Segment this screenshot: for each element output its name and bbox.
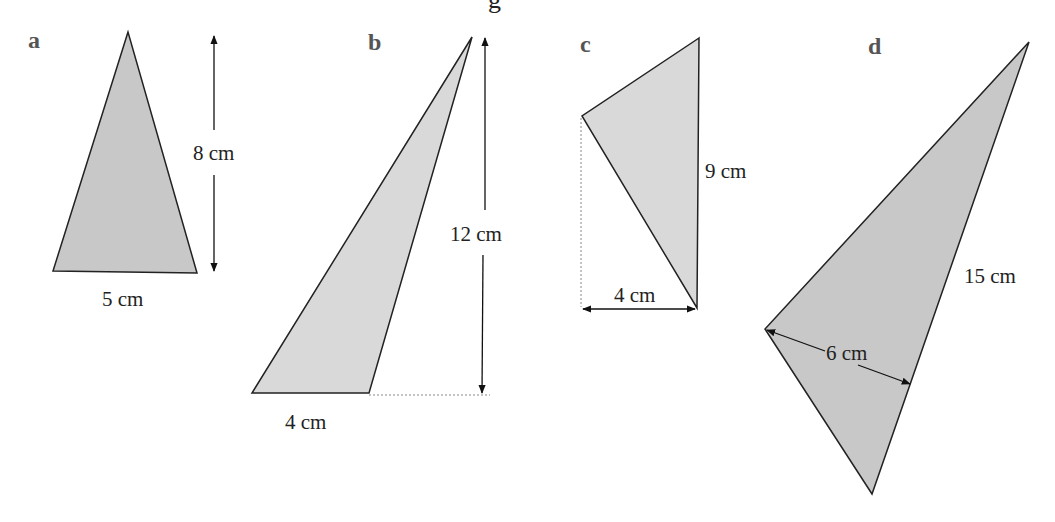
figure-d: d 6 cm 15 cm bbox=[765, 33, 1029, 494]
figure-b-letter: b bbox=[368, 29, 381, 55]
side-label-d: 15 cm bbox=[964, 264, 1016, 288]
triangles-diagram: g a 8 cm 5 cm b 12 cm 4 cm c 9 cm 4 cm d… bbox=[0, 0, 1055, 522]
figure-d-letter: d bbox=[868, 33, 882, 59]
figure-a-letter: a bbox=[28, 27, 40, 53]
height-label-c: 9 cm bbox=[705, 159, 746, 183]
figure-c: c 9 cm 4 cm bbox=[580, 31, 746, 309]
height-arrow-b-down bbox=[482, 255, 483, 393]
figure-b: b 12 cm 4 cm bbox=[252, 29, 502, 434]
height-label-a: 8 cm bbox=[193, 141, 234, 165]
triangle-c bbox=[582, 38, 699, 308]
base-label-a: 5 cm bbox=[102, 287, 143, 311]
figure-a: a 8 cm 5 cm bbox=[28, 27, 234, 311]
triangle-a bbox=[53, 32, 197, 273]
height-label-d: 6 cm bbox=[826, 341, 867, 365]
base-label-b: 4 cm bbox=[285, 410, 326, 434]
triangle-b bbox=[252, 37, 472, 393]
figure-c-letter: c bbox=[580, 31, 591, 57]
cut-off-title: g bbox=[488, 0, 501, 14]
base-label-c: 4 cm bbox=[614, 283, 655, 307]
height-label-b: 12 cm bbox=[450, 222, 502, 246]
